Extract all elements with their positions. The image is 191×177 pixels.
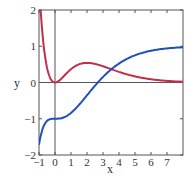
x-tick-label: 6 [148, 156, 154, 168]
x-tick-label: 7 [164, 156, 170, 168]
y-tick-label: 0 [31, 77, 37, 89]
series-line [39, 47, 183, 145]
y-tick-label: 1 [31, 40, 37, 52]
x-tick-label: 1 [68, 156, 74, 168]
line-chart: −101234567−2−1012 [0, 0, 191, 177]
x-tick-label: 5 [132, 156, 138, 168]
x-tick-label: 3 [100, 156, 106, 168]
x-tick-label: 4 [116, 156, 122, 168]
y-tick-label: −1 [24, 113, 36, 125]
y-axis-label: y [14, 77, 20, 89]
x-tick-label: 2 [84, 156, 90, 168]
x-axis-label: x [107, 163, 113, 175]
y-tick-label: 2 [31, 4, 37, 16]
y-tick-label: −2 [24, 149, 36, 161]
x-tick-label: 0 [52, 156, 58, 168]
